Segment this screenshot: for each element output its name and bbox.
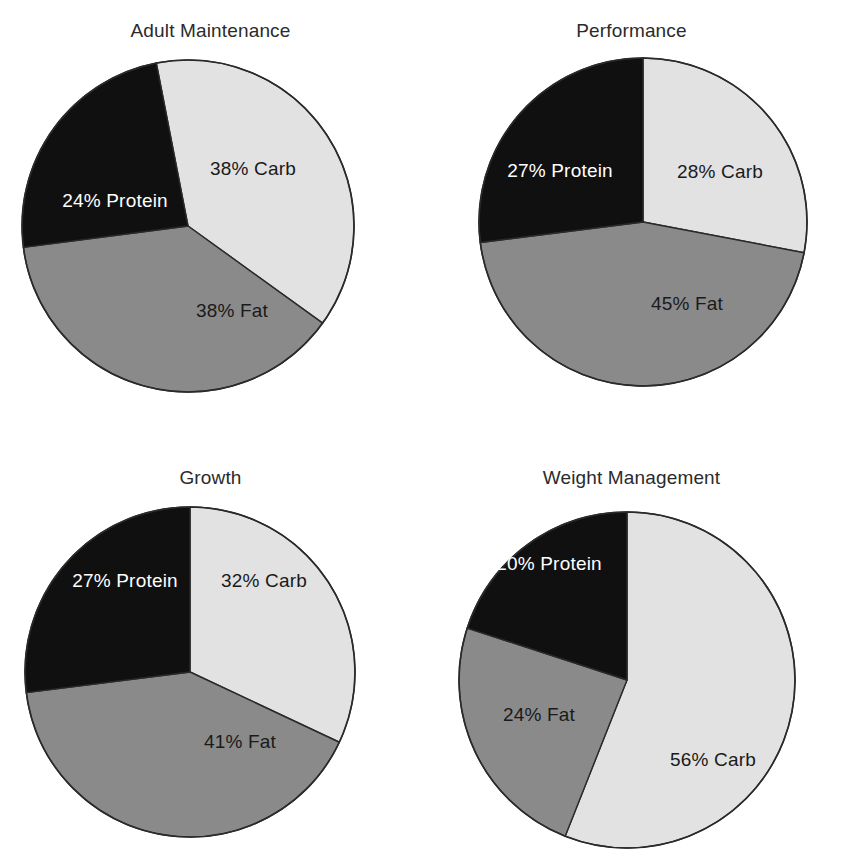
slice-label-fat: 41% Fat xyxy=(204,731,277,752)
pie-chart-grid: Adult Maintenance38% Carb38% Fat24% Prot… xyxy=(0,0,843,863)
slice-label-fat: 38% Fat xyxy=(196,300,269,321)
pie-svg: 32% Carb41% Fat27% Protein xyxy=(0,432,421,863)
pie-svg: 28% Carb45% Fat27% Protein xyxy=(421,0,842,431)
slice-label-protein: 24% Protein xyxy=(62,190,168,211)
pie-slice-protein xyxy=(479,58,643,243)
slice-label-fat: 45% Fat xyxy=(651,293,724,314)
pie-figure: 28% Carb45% Fat27% Protein xyxy=(421,0,842,431)
pie-figure: 38% Carb38% Fat24% Protein xyxy=(0,0,421,431)
pie-chart-panel: Growth32% Carb41% Fat27% Protein xyxy=(0,432,421,863)
slice-label-carb: 32% Carb xyxy=(221,570,307,591)
slice-label-protein: 27% Protein xyxy=(507,160,613,181)
slice-label-fat: 24% Fat xyxy=(503,704,576,725)
pie-slice-protein xyxy=(25,507,190,693)
pie-slice-fat xyxy=(480,222,804,386)
pie-svg: 38% Carb38% Fat24% Protein xyxy=(0,0,421,431)
slice-label-carb: 38% Carb xyxy=(210,158,296,179)
slice-label-carb: 28% Carb xyxy=(677,161,763,182)
pie-slice-carb xyxy=(643,58,807,253)
slice-label-protein: 27% Protein xyxy=(72,570,178,591)
pie-chart-panel: Performance28% Carb45% Fat27% Protein xyxy=(421,0,842,431)
slice-label-protein: 20% Protein xyxy=(496,553,602,574)
pie-svg: 56% Carb24% Fat20% Protein xyxy=(421,432,842,863)
pie-chart-panel: Adult Maintenance38% Carb38% Fat24% Prot… xyxy=(0,0,421,431)
pie-chart-panel: Weight Management56% Carb24% Fat20% Prot… xyxy=(421,432,842,863)
slice-label-carb: 56% Carb xyxy=(670,749,756,770)
pie-figure: 56% Carb24% Fat20% Protein xyxy=(421,432,842,863)
pie-figure: 32% Carb41% Fat27% Protein xyxy=(0,432,421,863)
